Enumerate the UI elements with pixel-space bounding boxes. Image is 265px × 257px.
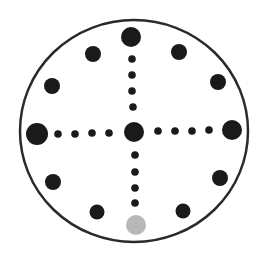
- small-dot-8: [54, 130, 62, 138]
- small-dot-3: [129, 103, 137, 111]
- small-dot-2: [128, 87, 136, 95]
- small-dot-1: [128, 71, 136, 79]
- small-dot-4: [131, 151, 139, 159]
- large-dot-left: [26, 123, 48, 145]
- small-dot-13: [171, 127, 179, 135]
- small-dot-15: [205, 126, 213, 134]
- large-dot-center: [124, 122, 144, 142]
- small-dot-6: [131, 184, 139, 192]
- large-dot-top: [121, 27, 141, 47]
- small-dot-11: [105, 129, 113, 137]
- medium-dot-5: [212, 170, 228, 186]
- small-dot-14: [188, 127, 196, 135]
- small-dot-10: [88, 129, 96, 137]
- small-dot-0: [128, 55, 136, 63]
- medium-dot-6: [90, 205, 105, 220]
- medium-dot-0: [85, 46, 101, 62]
- small-dot-9: [71, 130, 79, 138]
- dot-clock-diagram: [0, 0, 265, 257]
- medium-dot-2: [44, 78, 60, 94]
- medium-dot-1: [171, 44, 187, 60]
- medium-dot-3: [210, 74, 226, 90]
- small-dot-7: [131, 199, 139, 207]
- small-dot-5: [131, 168, 139, 176]
- large-dot-right: [222, 120, 242, 140]
- small-dot-12: [154, 127, 162, 135]
- medium-dot-4: [45, 174, 61, 190]
- medium-dot-7: [176, 204, 191, 219]
- highlighted-bottom-dot: [126, 215, 146, 235]
